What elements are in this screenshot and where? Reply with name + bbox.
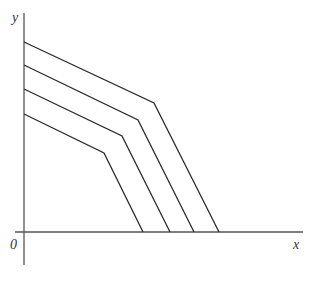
diagram-canvas: y x 0 bbox=[0, 0, 313, 281]
line-2 bbox=[24, 65, 194, 232]
diagram-svg: y x 0 bbox=[0, 0, 313, 281]
line-4 bbox=[24, 114, 143, 232]
line-3 bbox=[24, 89, 170, 232]
piecewise-lines bbox=[24, 42, 219, 232]
line-1 bbox=[24, 42, 219, 232]
x-axis-label: x bbox=[292, 237, 300, 252]
origin-label: 0 bbox=[10, 237, 17, 252]
y-axis-label: y bbox=[10, 10, 19, 25]
